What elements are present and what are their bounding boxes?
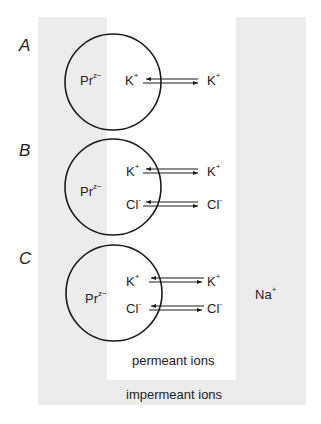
protein-label-b: Prz−	[80, 185, 102, 198]
ion-outside-c-cl: Cl-	[207, 302, 222, 315]
panel-label-b: B	[19, 142, 30, 159]
ion-outside-a-k: K+	[207, 74, 220, 87]
ion-inside-c-cl: Cl-	[126, 302, 141, 315]
ion-inside-c-k: K+	[126, 275, 139, 288]
ion-inside-b-cl: Cl-	[126, 198, 141, 211]
ion-outside-b-cl: Cl-	[207, 198, 222, 211]
ion-inside-b-k: K+	[126, 165, 139, 178]
impermeant-ions-label: impermeant ions	[126, 388, 222, 401]
protein-label-a: Prz−	[80, 74, 102, 87]
ion-outside-b-k: K+	[207, 165, 220, 178]
panel-label-c: C	[19, 250, 31, 267]
cell-circle-c	[66, 245, 162, 341]
external-ion-na: Na+	[255, 288, 276, 301]
permeant-ions-label: permeant ions	[132, 354, 214, 367]
ion-outside-c-k: K+	[207, 275, 220, 288]
panel-label-a: A	[19, 37, 30, 54]
ion-inside-a-k: K+	[125, 74, 138, 87]
protein-label-c: Prz−	[85, 292, 107, 305]
